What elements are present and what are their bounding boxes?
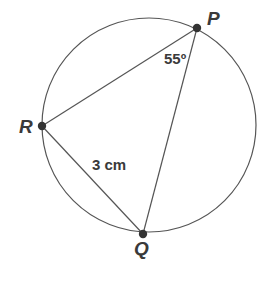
segment-PR (42, 28, 197, 126)
point-R (38, 122, 46, 130)
label-R: R (19, 116, 33, 137)
point-P (193, 24, 201, 32)
angle-P-label: 55º (164, 50, 187, 67)
label-P: P (207, 8, 220, 29)
label-Q: Q (134, 238, 149, 259)
circle-diagram: P R Q 55º 3 cm (0, 0, 265, 288)
circle (42, 18, 256, 232)
point-Q (139, 230, 147, 238)
side-RQ-label: 3 cm (92, 156, 126, 173)
